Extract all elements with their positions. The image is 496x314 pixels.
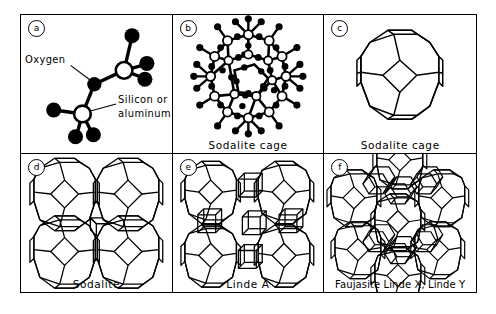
panel-letter-b: b bbox=[180, 20, 197, 37]
panel-letter-a: a bbox=[28, 20, 45, 37]
truncated-octahedron-skeleton bbox=[324, 15, 476, 153]
panel-c: c bbox=[324, 15, 476, 154]
panel-f-caption: Faujasite Linde X, Linde Y bbox=[324, 279, 476, 290]
panel-b-caption: Sodalite cage bbox=[173, 139, 324, 151]
oxygen-label: Oxygen bbox=[25, 54, 66, 65]
tetrahedra-unit-diagram: Oxygen Silicon or aluminum bbox=[21, 15, 172, 153]
panel-c-caption: Sodalite cage bbox=[324, 139, 476, 151]
panel-b: b bbox=[173, 15, 325, 154]
panel-e-caption: Linde A bbox=[173, 278, 324, 290]
zeolite-structure-figure: a bbox=[20, 14, 477, 293]
silicon-aluminum-label-line1: Silicon or bbox=[118, 94, 168, 105]
faujasite-framework-diagram bbox=[324, 154, 476, 293]
linde-a-framework-diagram bbox=[173, 154, 324, 293]
panel-letter-f: f bbox=[331, 159, 348, 176]
panel-d: d bbox=[21, 154, 173, 293]
panel-a: a bbox=[21, 15, 173, 154]
panel-letter-d: d bbox=[28, 159, 45, 176]
panel-d-caption: Sodalite bbox=[21, 278, 172, 290]
sodalite-framework-diagram bbox=[21, 154, 172, 293]
panel-f: f bbox=[324, 154, 476, 293]
ball-and-stick-sodalite-cage bbox=[173, 15, 324, 153]
panel-letter-e: e bbox=[180, 159, 197, 176]
silicon-aluminum-label-line2: aluminum bbox=[118, 108, 171, 119]
panel-e: e bbox=[173, 154, 325, 293]
